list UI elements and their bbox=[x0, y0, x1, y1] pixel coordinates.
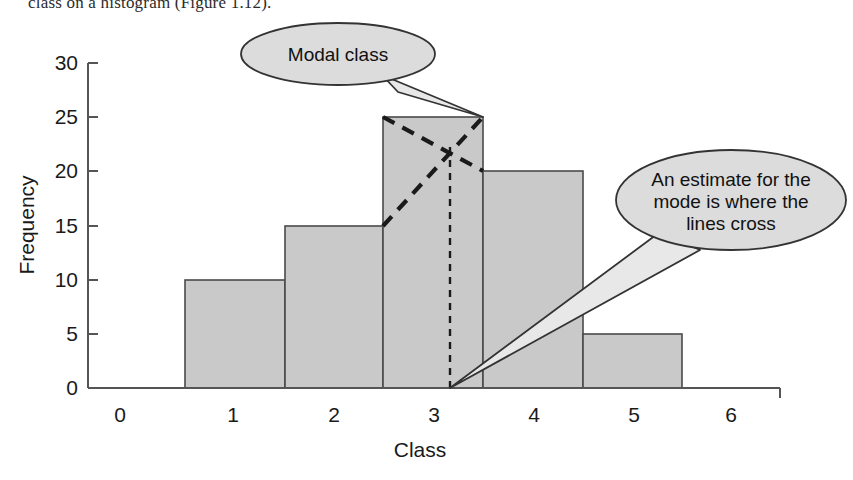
mode-estimate-callout-line-2: mode is where the bbox=[653, 191, 808, 212]
mode-estimate-callout-line-3: lines cross bbox=[686, 213, 776, 234]
mode-estimate-callout-line-1: An estimate for the bbox=[651, 169, 810, 190]
y-tick-label-30: 30 bbox=[55, 51, 78, 74]
bar-class-5 bbox=[583, 334, 682, 388]
x-axis-title: Class bbox=[394, 438, 447, 461]
x-tick-label-5: 5 bbox=[628, 403, 640, 426]
y-tick-label-15: 15 bbox=[55, 214, 78, 237]
y-tick-label-5: 5 bbox=[66, 322, 78, 345]
x-tick-label-4: 4 bbox=[528, 403, 540, 426]
x-axis-tick-labels: 0 1 2 3 4 5 6 bbox=[114, 403, 737, 426]
modal-class-callout-label: Modal class bbox=[288, 44, 388, 65]
x-tick-label-6: 6 bbox=[725, 403, 737, 426]
y-tick-label-10: 10 bbox=[55, 268, 78, 291]
y-tick-label-25: 25 bbox=[55, 105, 78, 128]
x-tick-label-3: 3 bbox=[428, 403, 440, 426]
bar-class-2 bbox=[285, 226, 383, 388]
x-tick-label-2: 2 bbox=[328, 403, 340, 426]
modal-class-callout-tail bbox=[382, 75, 483, 117]
y-axis-tick-labels: 0 5 10 15 20 25 30 bbox=[55, 51, 78, 399]
bar-class-1 bbox=[185, 280, 285, 388]
y-tick-label-20: 20 bbox=[55, 159, 78, 182]
x-tick-label-1: 1 bbox=[227, 403, 239, 426]
histogram-chart: 0 5 10 15 20 25 30 0 1 2 3 4 5 6 Class F… bbox=[0, 0, 853, 480]
bars-group bbox=[185, 117, 682, 388]
callout-modal-class[interactable]: Modal class bbox=[241, 23, 483, 117]
y-tick-label-0: 0 bbox=[66, 376, 78, 399]
y-axis-ticks bbox=[88, 63, 98, 388]
histogram-figure: class on a histogram (Figure 1.12). bbox=[0, 0, 853, 480]
x-tick-label-0: 0 bbox=[114, 403, 126, 426]
bar-class-3 bbox=[383, 117, 483, 388]
y-axis-title: Frequency bbox=[15, 175, 38, 275]
